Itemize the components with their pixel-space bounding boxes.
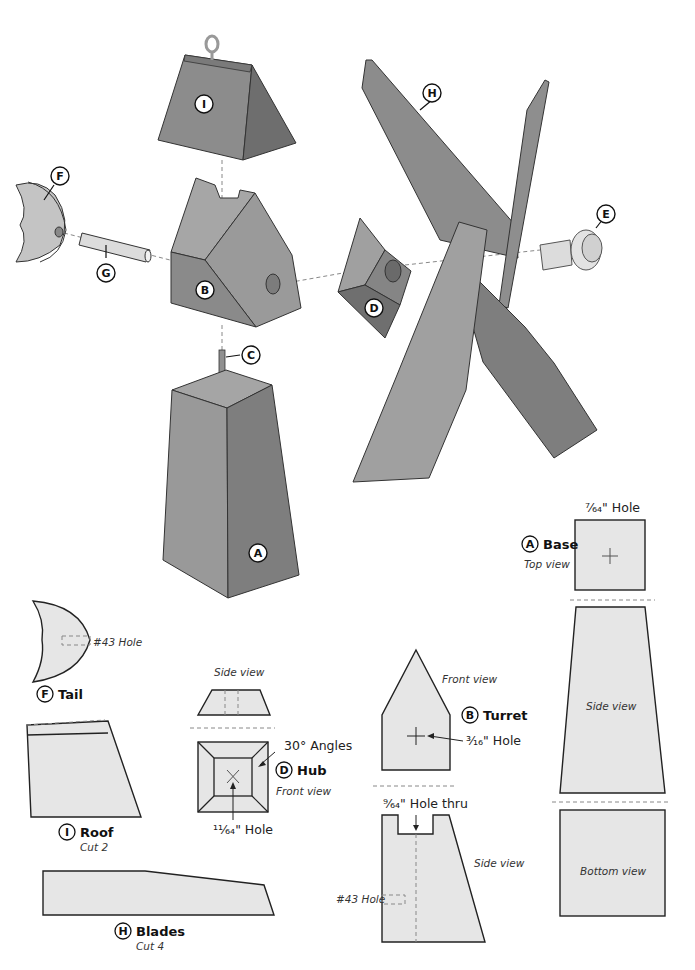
roof-3d — [158, 36, 296, 160]
svg-text:Tail: Tail — [58, 687, 83, 702]
svg-text:F: F — [56, 170, 64, 183]
base-3d — [163, 350, 299, 598]
callout-F: F — [51, 167, 69, 185]
svg-text:Front view: Front view — [442, 673, 497, 685]
svg-text:Turret: Turret — [483, 708, 528, 723]
svg-text:#43 Hole: #43 Hole — [93, 636, 142, 648]
callout-A: A — [249, 544, 267, 562]
svg-text:H: H — [118, 925, 127, 938]
tail-3d — [16, 182, 66, 262]
dowel-3d — [79, 233, 151, 262]
svg-text:Blades: Blades — [136, 924, 185, 939]
callout-I: I — [195, 95, 213, 113]
svg-text:F: F — [41, 688, 49, 701]
callout-E: E — [597, 205, 615, 223]
svg-text:Side view: Side view — [474, 857, 525, 869]
eye-hook-icon — [206, 36, 218, 52]
tail-label: F Tail — [37, 686, 83, 702]
callout-D: D — [365, 299, 383, 317]
svg-text:C: C — [247, 349, 255, 362]
svg-text:Side view: Side view — [586, 700, 637, 712]
hub-pattern: Side view 30° Angles D Hub Front view ¹¹… — [190, 666, 352, 837]
svg-text:Hub: Hub — [297, 763, 326, 778]
turret-pattern: Front view B Turret ³⁄₁₆" Hole ⁹⁄₆₄" Hol… — [336, 650, 528, 942]
hub-3d — [338, 218, 411, 338]
svg-text:G: G — [101, 267, 110, 280]
svg-text:Top view: Top view — [524, 558, 570, 570]
svg-text:B: B — [201, 284, 209, 297]
svg-text:I: I — [202, 98, 206, 111]
svg-text:E: E — [602, 208, 610, 221]
svg-text:Front view: Front view — [276, 785, 331, 797]
windmill-plan-diagram: I F G B C A D H E #43 Hole F Tail I Roof… — [0, 0, 695, 970]
svg-text:A: A — [526, 538, 535, 551]
callout-B: B — [196, 281, 214, 299]
svg-text:Roof: Roof — [80, 825, 114, 840]
callout-G: G — [97, 264, 115, 282]
svg-text:Cut 4: Cut 4 — [136, 940, 164, 952]
svg-text:⁷⁄₆₄" Hole: ⁷⁄₆₄" Hole — [585, 500, 640, 515]
svg-text:D: D — [369, 302, 378, 315]
turret-3d — [171, 178, 301, 327]
bolt-3d — [540, 230, 602, 270]
svg-text:Bottom view: Bottom view — [580, 865, 646, 877]
svg-text:³⁄₁₆" Hole: ³⁄₁₆" Hole — [466, 733, 521, 748]
svg-text:Cut 2: Cut 2 — [80, 841, 108, 853]
tail-pattern: #43 Hole F Tail — [33, 601, 142, 702]
base-pattern: ⁷⁄₆₄" Hole A Base Top view Side view Bot… — [522, 500, 670, 916]
blades-pattern: H Blades Cut 4 — [43, 871, 274, 952]
roof-pattern: I Roof Cut 2 — [27, 720, 141, 853]
svg-text:B: B — [466, 709, 474, 722]
svg-text:H: H — [427, 87, 436, 100]
svg-text:Base: Base — [543, 537, 578, 552]
callout-C: C — [242, 346, 260, 364]
svg-text:30° Angles: 30° Angles — [284, 738, 352, 753]
exploded-view: I F G B C A D H E — [16, 36, 615, 598]
svg-text:Side view: Side view — [214, 666, 265, 678]
svg-text:⁹⁄₆₄" Hole thru: ⁹⁄₆₄" Hole thru — [383, 796, 468, 811]
svg-text:A: A — [254, 547, 263, 560]
svg-text:I: I — [65, 826, 69, 839]
callout-H: H — [423, 84, 441, 102]
svg-text:¹¹⁄₆₄" Hole: ¹¹⁄₆₄" Hole — [213, 822, 273, 837]
svg-text:D: D — [279, 764, 288, 777]
svg-text:#43 Hole: #43 Hole — [336, 893, 385, 905]
